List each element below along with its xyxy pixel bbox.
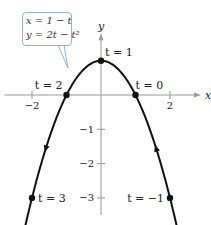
x-equation: x = 1 − t: [26, 14, 68, 28]
x-tick-label: 2: [167, 100, 173, 111]
point-label: t = 0: [136, 79, 164, 92]
y-axis-arrow-icon: [99, 33, 104, 40]
curve-point: [63, 92, 69, 98]
point-label: t = 2: [35, 79, 63, 92]
curve-point: [98, 58, 104, 64]
equations-callout: x = 1 − t y = 2t − t²: [22, 12, 72, 46]
curve-point: [29, 195, 35, 201]
callout-pointer: [58, 45, 68, 68]
curve-point: [167, 195, 173, 201]
y-tick-label: −3: [79, 192, 94, 203]
point-label: t = 1: [105, 46, 133, 59]
y-tick-label: −2: [79, 158, 94, 169]
x-tick-label: −2: [25, 100, 40, 111]
curve-point: [132, 92, 138, 98]
x-axis-label: x: [205, 89, 211, 102]
y-axis-label: y: [97, 20, 105, 33]
point-label: t = 3: [38, 192, 66, 205]
x-axis-arrow-icon: [194, 93, 201, 98]
y-equation: y = 2t − t²: [26, 28, 68, 42]
point-label: t = −1: [127, 192, 164, 205]
y-tick-label: −1: [79, 124, 94, 135]
